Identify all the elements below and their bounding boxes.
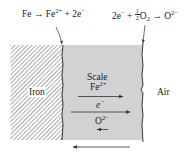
electron-sup: − bbox=[100, 98, 104, 105]
cathode-eq-plus: + bbox=[125, 11, 135, 21]
fe-ion-label: Fe2+ bbox=[90, 82, 106, 92]
cathode-eq-o2: O bbox=[140, 11, 147, 21]
cathode-equation: 2e− + 12O2 → O2− bbox=[112, 8, 178, 21]
cathode-leader-arrow bbox=[143, 25, 145, 43]
cathode-eq-arrow: → O bbox=[150, 11, 171, 21]
oxide-ion-base: O bbox=[95, 116, 102, 126]
anode-eq-tail: + 2e bbox=[62, 9, 81, 19]
electron-label: e− bbox=[96, 100, 105, 110]
oxide-ion-label: O2− bbox=[95, 116, 109, 126]
anode-eq-tail-sup: − bbox=[81, 7, 85, 14]
cathode-eq-lead: 2e bbox=[112, 11, 121, 21]
oxide-ion-sup: 2− bbox=[102, 114, 109, 121]
anode-eq-base: Fe → Fe bbox=[22, 9, 55, 19]
anode-leader-arrow bbox=[56, 27, 62, 44]
fe-ion-base: Fe bbox=[90, 82, 100, 92]
air-label: Air bbox=[157, 87, 170, 97]
cathode-eq-product-sup: 2− bbox=[171, 9, 178, 16]
fe-ion-sup: 2+ bbox=[100, 80, 107, 87]
iron-label: Iron bbox=[28, 87, 46, 97]
anode-equation: Fe → Fe2+ + 2e− bbox=[22, 9, 85, 19]
